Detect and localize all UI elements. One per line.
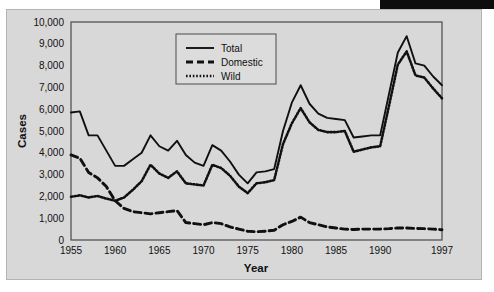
series-line-domestic [71,155,442,232]
y-tick-label: 3,000 [39,169,64,180]
y-tick-label: 5,000 [39,126,64,137]
x-tick-label: 1990 [369,245,392,256]
x-axis-tick-labels: 195519601965197019751980198519901997 [60,245,454,256]
y-tick-label: 9,000 [39,38,64,49]
y-tick-label: 7,000 [39,82,64,93]
y-tick-label: 2,000 [39,191,64,202]
x-tick-label: 1975 [237,245,260,256]
x-tick-label: 1955 [60,245,83,256]
x-tick-label: 1960 [104,245,127,256]
figure-root: 01,0002,0003,0004,0005,0006,0007,0008,00… [0,0,494,292]
y-axis-tick-labels: 01,0002,0003,0004,0005,0006,0007,0008,00… [33,17,64,246]
y-tick-label: 10,000 [33,17,64,28]
y-axis-title: Cases [16,114,28,148]
y-tick-label: 6,000 [39,104,64,115]
line-chart: 01,0002,0003,0004,0005,0006,0007,0008,00… [0,0,494,292]
x-tick-label: 1980 [281,245,304,256]
y-tick-label: 4,000 [39,147,64,158]
chart-legend: TotalDomesticWild [176,34,276,84]
legend-label-total: Total [221,43,242,54]
y-tick-label: 0 [58,235,64,246]
legend-label-wild: Wild [221,71,240,82]
x-tick-label: 1965 [148,245,171,256]
x-tick-label: 1985 [325,245,348,256]
x-tick-label: 1970 [192,245,215,256]
y-tick-label: 8,000 [39,60,64,71]
y-tick-label: 1,000 [39,213,64,224]
x-axis-title: Year [244,262,269,274]
legend-label-domestic: Domestic [221,57,263,68]
x-tick-label: 1997 [431,245,454,256]
